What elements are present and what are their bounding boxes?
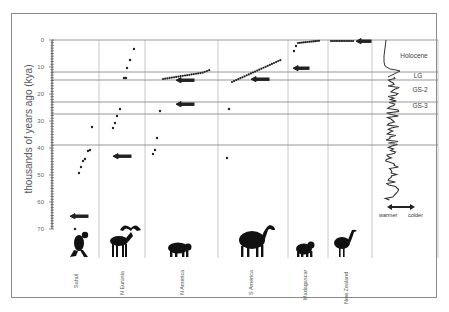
arrow-new-zealand (356, 39, 371, 44)
region-labels: Sahul N Eurasia N America S America Mada… (73, 269, 349, 304)
svg-text:10: 10 (37, 64, 44, 70)
band-gs3: GS-3 (412, 102, 428, 109)
column-dividers (99, 40, 438, 258)
region-s-america: S America (248, 269, 254, 295)
marsupial-icon (70, 232, 88, 257)
y-axis: 0 10 20 30 40 50 60 70 (37, 37, 54, 232)
svg-text:50: 50 (37, 172, 44, 178)
extinction-points (74, 40, 320, 231)
band-holocene: Holocene (400, 52, 428, 59)
human-arrival-arrows (70, 39, 371, 219)
arrow-s-america (251, 77, 269, 82)
animal-silhouettes (70, 225, 357, 257)
climate-legend: warmer colder (378, 204, 423, 218)
region-new-zealand: New Zealand (343, 272, 349, 304)
region-n-eurasia: N Eurasia (119, 270, 125, 295)
moa-icon (334, 230, 357, 257)
region-madagascar: Madagascar (302, 270, 308, 300)
band-lg: LG (414, 72, 423, 79)
band-lines (52, 72, 438, 145)
chart-canvas: 0 10 20 30 40 50 60 70 (0, 0, 449, 312)
arrow-madagascar (293, 66, 309, 71)
region-sahul: Sahul (73, 274, 79, 288)
svg-text:70: 70 (37, 226, 44, 232)
svg-text:60: 60 (37, 199, 44, 205)
svg-text:20: 20 (37, 91, 44, 97)
svg-text:warmer: warmer (378, 212, 398, 218)
sabertooth-icon (168, 243, 192, 258)
climate-curve-noisy (385, 77, 399, 200)
arrow-n-america-1 (176, 78, 194, 83)
band-gs2: GS-2 (412, 86, 428, 93)
svg-text:0: 0 (41, 37, 45, 43)
arrow-n-eurasia (113, 154, 131, 159)
svg-text:colder: colder (408, 212, 423, 218)
svg-text:40: 40 (37, 145, 44, 151)
svg-text:30: 30 (37, 118, 44, 124)
climate-curve (384, 40, 400, 77)
irish-elk-icon (110, 225, 141, 257)
giant-lemur-icon (296, 242, 315, 258)
region-n-america: N America (179, 269, 185, 295)
macrauchenia-icon (239, 225, 275, 257)
arrow-sahul (70, 214, 88, 219)
